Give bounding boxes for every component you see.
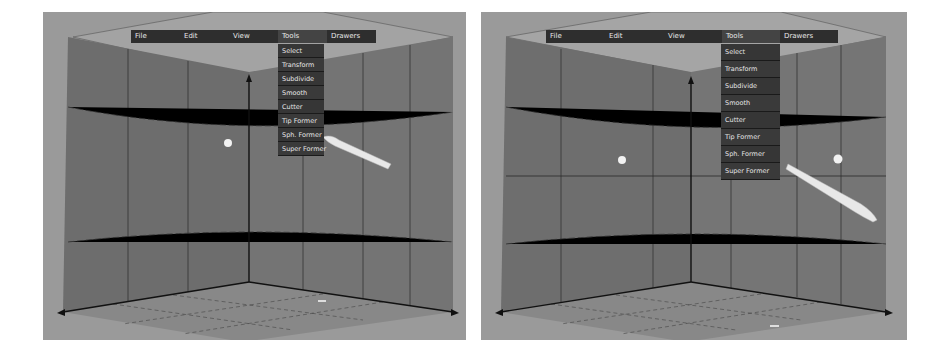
menu-item-super-former[interactable]: Super Former [278,142,324,156]
menu-item-smooth[interactable]: Smooth [721,95,780,112]
menu-item-select[interactable]: Select [278,44,324,58]
light-point-icon [618,156,626,164]
viewport-right[interactable]: File Edit View Tools Drawers Select Tran… [481,12,907,340]
tools-dropdown: Select Transform Subdivide Smooth Cutter… [721,44,780,180]
menu-file[interactable]: File [131,30,180,43]
menu-item-subdivide[interactable]: Subdivide [278,72,324,86]
menubar: File Edit View Tools Drawers [546,30,838,43]
menu-item-tip-former[interactable]: Tip Former [721,129,780,146]
menu-item-tip-former[interactable]: Tip Former [278,114,324,128]
menu-drawers[interactable]: Drawers [327,30,376,43]
floor-marker [770,325,779,327]
3d-scene-left[interactable] [43,12,466,340]
menu-tools[interactable]: Tools [278,30,327,43]
menu-item-sph-former[interactable]: Sph. Former [721,146,780,163]
z-axis-arrow-icon [885,309,893,316]
x-axis-arrow-icon [57,309,65,316]
menu-item-select[interactable]: Select [721,44,780,61]
menu-view[interactable]: View [664,30,722,43]
tools-dropdown: Select Transform Subdivide Smooth Cutter… [278,44,324,156]
menu-item-transform[interactable]: Transform [278,58,324,72]
menu-file[interactable]: File [546,30,605,43]
menu-item-cutter[interactable]: Cutter [278,100,324,114]
menu-item-transform[interactable]: Transform [721,61,780,78]
floor-marker [318,300,326,302]
menu-edit[interactable]: Edit [605,30,664,43]
menubar: File Edit View Tools Drawers [131,30,376,43]
menu-item-cutter[interactable]: Cutter [721,112,780,129]
3d-scene-right[interactable] [481,12,907,340]
menu-view[interactable]: View [229,30,278,43]
menu-item-sph-former[interactable]: Sph. Former [278,128,324,142]
light-point-icon [834,155,843,164]
viewport-left[interactable]: File Edit View Tools Drawers Select Tran… [43,12,466,340]
menu-item-subdivide[interactable]: Subdivide [721,78,780,95]
menu-item-super-former[interactable]: Super Former [721,163,780,180]
x-axis-arrow-icon [495,309,503,316]
menu-tools[interactable]: Tools [722,30,780,43]
light-point-icon [224,139,232,147]
z-axis-arrow-icon [451,309,459,316]
menu-drawers[interactable]: Drawers [780,30,838,43]
menu-item-smooth[interactable]: Smooth [278,86,324,100]
menu-edit[interactable]: Edit [180,30,229,43]
